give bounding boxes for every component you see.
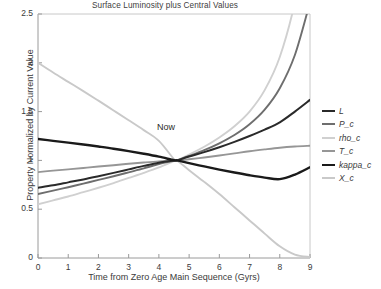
x-axis-label: Time from Zero Age Main Sequence (Gyrs): [38, 272, 310, 282]
legend-label-X_c: X_c: [339, 173, 354, 183]
x-tick-label: 9: [301, 262, 319, 272]
y-tick-label: 2: [7, 57, 33, 67]
legend-label-rho_c: rho_c: [339, 133, 360, 143]
legend-item-T_c[interactable]: T_c: [322, 145, 381, 159]
legend-label-T_c: T_c: [339, 146, 353, 156]
y-tick-label: 0.5: [7, 203, 33, 213]
x-tick-label: 3: [120, 262, 138, 272]
series-line-rho_c: [38, 0, 310, 204]
now-annotation: Now: [157, 122, 175, 132]
series-line-P_c: [38, 2, 310, 194]
x-tick-label: 0: [29, 262, 47, 272]
legend-swatch-L: [322, 110, 335, 112]
legend-swatch-rho_c: [322, 137, 335, 139]
legend-item-kappa_c[interactable]: kappa_c: [322, 158, 381, 172]
legend-swatch-kappa_c: [322, 164, 335, 166]
legend-item-rho_c[interactable]: rho_c: [322, 131, 381, 145]
x-tick-label: 7: [241, 262, 259, 272]
x-tick-label: 1: [59, 262, 77, 272]
y-tick-label: 2.5: [7, 8, 33, 18]
y-tick-label: 1: [7, 154, 33, 164]
legend-item-L[interactable]: L: [322, 104, 381, 118]
legend-item-P_c[interactable]: P_c: [322, 118, 381, 132]
x-tick-label: 2: [89, 262, 107, 272]
legend-swatch-P_c: [322, 123, 335, 125]
legend-label-kappa_c: kappa_c: [339, 160, 371, 170]
legend-swatch-T_c: [322, 150, 335, 152]
series-line-kappa_c: [38, 139, 310, 179]
y-tick-label: 0: [7, 252, 33, 262]
legend-label-P_c: P_c: [339, 119, 354, 129]
y-tick-label: 1.5: [7, 106, 33, 116]
chart-legend: LP_crho_cT_ckappa_cX_c: [322, 104, 381, 185]
plot-frame: [38, 14, 310, 258]
legend-swatch-X_c: [322, 177, 335, 179]
axis-ticks: [38, 14, 310, 258]
legend-item-X_c[interactable]: X_c: [322, 172, 381, 186]
chart-figure: Surface Luminosity plus Central Values P…: [0, 0, 381, 289]
x-tick-label: 8: [271, 262, 289, 272]
x-tick-label: 5: [180, 262, 198, 272]
legend-label-L: L: [339, 106, 344, 116]
x-tick-label: 4: [150, 262, 168, 272]
x-tick-label: 6: [210, 262, 228, 272]
